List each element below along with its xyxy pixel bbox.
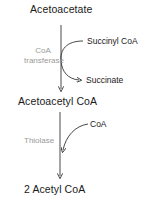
- output-succinate: Succinate: [86, 76, 123, 85]
- input-coa: CoA: [90, 120, 107, 129]
- input-succinyl-coa: Succinyl CoA: [87, 37, 138, 46]
- arrow-coa-in: [63, 124, 88, 150]
- arrow-succinyl-coa-to-succinate: [61, 41, 83, 80]
- node-acetoacetyl-coa: Acetoacetyl CoA: [18, 96, 97, 107]
- node-2-acetyl-coa: 2 Acetyl CoA: [24, 184, 85, 195]
- node-acetoacetate: Acetoacetate: [30, 4, 93, 15]
- enzyme-coa-transferase-line2: transferase: [24, 57, 62, 65]
- enzyme-coa-transferase-line1: CoA: [24, 47, 62, 55]
- enzyme-thiolase: Thiolase: [24, 137, 54, 145]
